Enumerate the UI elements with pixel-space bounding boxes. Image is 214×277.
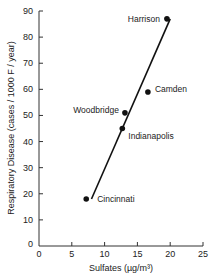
data-point: Indianapolis xyxy=(120,126,174,141)
point-marker xyxy=(83,196,89,202)
x-axis-label: Sulfates (µg/m³) xyxy=(89,263,153,273)
data-point: Cincinnati xyxy=(83,194,134,204)
scatter-chart: 05101520250102030405060708090 HarrisonCa… xyxy=(0,0,214,277)
x-tick-label: 20 xyxy=(165,249,175,259)
y-tick-label: 10 xyxy=(23,215,33,225)
y-tick-label: 40 xyxy=(23,137,33,147)
point-marker xyxy=(122,110,128,116)
y-axis-label: Respiratory Disease (cases / 1000 F / ye… xyxy=(6,41,16,215)
y-tick-label: 20 xyxy=(23,189,33,199)
point-label: Harrison xyxy=(128,14,160,24)
x-tick-label: 25 xyxy=(198,249,208,259)
x-tick-label: 5 xyxy=(69,249,74,259)
data-point: Harrison xyxy=(128,14,170,24)
point-label: Indianapolis xyxy=(128,131,173,141)
y-tick-label: 50 xyxy=(23,110,33,120)
x-tick-label: 10 xyxy=(100,249,110,259)
y-tick-label: 30 xyxy=(23,163,33,173)
point-label: Woodbridge xyxy=(73,105,119,115)
point-marker xyxy=(164,16,170,22)
y-tick-label: 70 xyxy=(23,58,33,68)
x-tick-label: 0 xyxy=(36,249,41,259)
y-tick-label: 80 xyxy=(23,32,33,42)
y-tick-label: 60 xyxy=(23,84,33,94)
axes: 05101520250102030405060708090 xyxy=(23,6,208,259)
point-marker xyxy=(145,89,151,95)
data-point: Woodbridge xyxy=(73,105,127,116)
x-tick-label: 15 xyxy=(132,249,142,259)
data-point: Camden xyxy=(145,84,187,95)
point-label: Cincinnati xyxy=(97,194,134,204)
point-marker xyxy=(120,126,126,132)
y-tick-label: 90 xyxy=(23,6,33,16)
point-label: Camden xyxy=(155,84,187,94)
y-tick-label: 0 xyxy=(28,239,33,249)
